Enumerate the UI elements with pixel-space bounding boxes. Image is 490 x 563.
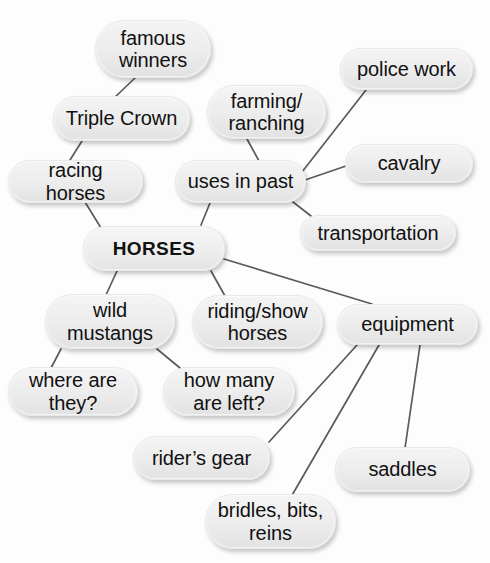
node-equipment[interactable]: equipment [337, 304, 478, 345]
edge-horses-to-uses-in-past [201, 203, 210, 225]
node-transportation[interactable]: transportation [300, 215, 456, 251]
node-bridles-bits[interactable]: bridles, bits, reins [205, 494, 336, 549]
edge-uses-in-past-to-cavalry [305, 166, 346, 180]
edge-triple-crown-to-racing-horses [70, 141, 82, 160]
node-triple-crown[interactable]: Triple Crown [53, 96, 190, 141]
edge-wild-mustangs-to-where-are-they [51, 349, 61, 368]
node-riders-gear[interactable]: rider’s gear [133, 436, 270, 480]
edge-horses-to-wild-mustangs [106, 271, 117, 295]
node-police-work[interactable]: police work [340, 48, 473, 90]
edge-wild-mustangs-to-how-many-left [157, 349, 180, 368]
edge-horses-to-riding-show [211, 271, 225, 296]
edge-equipment-to-saddles [405, 345, 420, 448]
node-saddles[interactable]: saddles [335, 447, 470, 492]
edge-uses-in-past-to-transportation [293, 202, 311, 216]
node-riding-show[interactable]: riding/show horses [192, 295, 323, 349]
node-racing-horses[interactable]: racing horses [8, 160, 143, 203]
node-where-are-they[interactable]: where are they? [8, 367, 138, 416]
node-farming-ranching[interactable]: farming/ ranching [207, 85, 326, 139]
node-famous-winners[interactable]: famous winners [95, 20, 211, 78]
node-how-many-left[interactable]: how many are left? [163, 367, 295, 416]
mind-map-canvas: famous winnersTriple Crownracing horsesH… [0, 0, 490, 563]
edge-farming-ranching-to-uses-in-past [247, 139, 259, 161]
node-cavalry[interactable]: cavalry [345, 144, 473, 183]
node-uses-in-past[interactable]: uses in past [175, 160, 306, 203]
node-horses[interactable]: HORSES [83, 226, 225, 271]
edge-racing-horses-to-horses [85, 202, 101, 228]
node-wild-mustangs[interactable]: wild mustangs [45, 294, 175, 349]
